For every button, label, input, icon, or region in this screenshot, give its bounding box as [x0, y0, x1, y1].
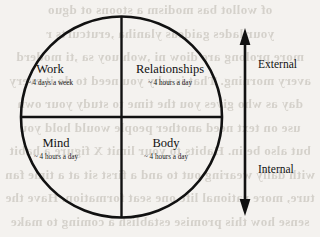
quadrant-work-title: Work	[2, 62, 98, 76]
axis-label-internal: Internal	[258, 163, 294, 175]
axis-label-external: External	[258, 58, 297, 70]
quadrant-body-subtitle: ~ 4 hours a day	[118, 153, 214, 162]
external-internal-axis-arrow	[240, 28, 251, 216]
axis-arrow-head-down	[240, 199, 251, 216]
quadrant-circle-diagram	[0, 0, 320, 237]
quadrant-mind-title: Mind	[8, 136, 104, 150]
quadrant-mind-subtitle: ~ 4 hours a day	[8, 153, 104, 162]
quadrant-relationships-title: Relationships	[122, 62, 218, 76]
quadrant-mind: Mind ~ 4 hours a day	[8, 136, 104, 162]
quadrant-body-title: Body	[118, 136, 214, 150]
quadrant-relationships: Relationships ~ 4 hours a day	[122, 62, 218, 88]
quadrant-work: Work ~ 4 days a week	[2, 62, 98, 88]
quadrant-relationships-subtitle: ~ 4 hours a day	[122, 79, 218, 88]
axis-arrow-head-up	[240, 28, 251, 45]
diagram-stage: Work ~ 4 days a week Relationships ~ 4 h…	[0, 0, 320, 237]
quadrant-work-subtitle: ~ 4 days a week	[2, 79, 98, 88]
quadrant-body: Body ~ 4 hours a day	[118, 136, 214, 162]
